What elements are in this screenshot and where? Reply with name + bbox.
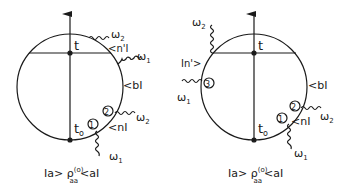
right-top-dot — [252, 51, 256, 55]
right-nprime-label: In'> — [181, 58, 201, 69]
left-b-label: <bI — [123, 79, 142, 92]
right-w1-left-label: ω1 — [177, 91, 191, 106]
left-t0-label: to — [74, 121, 84, 138]
left-photon-w2-bottom — [115, 112, 135, 115]
right-diagram — [182, 14, 321, 149]
left-vertex-2-label: 2 — [104, 108, 109, 117]
right-photon-w2-bottom — [301, 107, 321, 110]
left-labels: t to ω2 <n'I ω1 <bI 2 ω2 1 <nI ω1 Ia> ρ(… — [44, 28, 151, 185]
right-vertex-1-label: 1 — [278, 115, 283, 124]
right-b-label: <bI — [308, 79, 327, 92]
right-photon-w2-top — [211, 25, 214, 53]
right-density-matrix: Ia> ρ(o)aa<aI — [228, 166, 283, 185]
left-photon-w1-bottom — [96, 131, 100, 156]
right-t0-label: to — [258, 121, 268, 138]
right-photon-w1-left — [182, 80, 202, 83]
right-bottom-dot — [252, 138, 256, 142]
left-nprime-label: <n'I — [108, 43, 128, 54]
right-vertex-2-label: 2 — [291, 103, 296, 112]
right-t-label: t — [258, 38, 263, 53]
right-n-label: <nI — [291, 115, 310, 128]
left-top-dot — [68, 51, 72, 55]
left-t-label: t — [74, 38, 79, 53]
left-n-label: <nI — [108, 121, 127, 134]
left-density-matrix: Ia> ρ(o)aa<aI — [44, 166, 99, 185]
right-vertex-3-label: 3 — [205, 80, 210, 89]
left-w1-top-label: ω1 — [137, 50, 151, 65]
right-w2-bottom-label: ω2 — [320, 110, 334, 125]
diagram-canvas: t to ω2 <n'I ω1 <bI 2 ω2 1 <nI ω1 Ia> ρ(… — [0, 0, 351, 191]
left-w2-bottom-label: ω2 — [136, 111, 150, 126]
left-w1-bottom-label: ω1 — [109, 150, 123, 165]
right-w1-bottom-label: ω1 — [294, 147, 308, 162]
right-labels: t to ω2 In'> 3 ω1 <bI 2 ω2 1 <nI ω1 Ia> … — [177, 16, 334, 185]
right-w2-top-label: ω2 — [192, 16, 206, 31]
left-vertex-1-label: 1 — [89, 121, 94, 130]
left-w2-top-label: ω2 — [111, 28, 125, 43]
left-bottom-dot — [68, 138, 72, 142]
